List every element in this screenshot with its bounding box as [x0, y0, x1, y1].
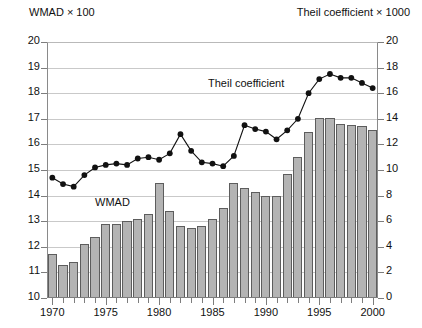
y-axis-right-tick-mark	[378, 221, 384, 222]
y-axis-right-tick-label: 10	[386, 162, 412, 174]
x-axis-tick-label: 1985	[193, 306, 233, 318]
x-axis-tick-label: 1970	[32, 306, 72, 318]
data-point-marker	[199, 159, 205, 165]
data-point-marker	[231, 153, 237, 159]
data-point-marker	[284, 127, 290, 133]
x-axis-tick-label: 1980	[139, 306, 179, 318]
data-point-marker	[210, 161, 216, 167]
y-axis-left-tick-label: 13	[14, 213, 40, 225]
data-point-marker	[92, 165, 98, 171]
data-point-marker	[327, 71, 333, 77]
chart-container: WMAD × 100 Theil coefficient × 1000 1011…	[0, 0, 422, 328]
y-axis-right-tick-label: 6	[386, 213, 412, 225]
data-point-marker	[359, 80, 365, 86]
data-point-marker	[220, 163, 226, 169]
y-axis-right-tick-label: 2	[386, 264, 412, 276]
data-point-marker	[370, 85, 376, 91]
y-axis-right-tick-mark	[378, 68, 384, 69]
y-axis-left-tick-label: 19	[14, 60, 40, 72]
y-axis-left-tick-label: 17	[14, 111, 40, 123]
data-point-marker	[103, 162, 109, 168]
y-axis-right-tick-label: 12	[386, 136, 412, 148]
data-point-marker	[71, 184, 77, 190]
y-axis-left-tick-label: 15	[14, 162, 40, 174]
right-axis-title: Theil coefficient × 1000	[297, 6, 410, 18]
y-axis-left-tick-label: 11	[14, 264, 40, 276]
x-axis-tick-label: 2000	[353, 306, 393, 318]
data-point-marker	[81, 172, 87, 178]
data-point-marker	[316, 76, 322, 82]
y-axis-right-tick-mark	[378, 119, 384, 120]
data-point-marker	[167, 150, 173, 156]
y-axis-right-tick-label: 0	[386, 290, 412, 302]
y-axis-left-tick-label: 18	[14, 85, 40, 97]
data-point-marker	[146, 154, 152, 160]
y-axis-left-tick-label: 10	[14, 290, 40, 302]
y-axis-right-tick-mark	[378, 272, 384, 273]
data-point-marker	[49, 175, 55, 181]
annotation-theil-coefficient: Theil coefficient	[208, 77, 284, 89]
x-axis-tick-label: 1990	[246, 306, 286, 318]
y-axis-right-tick-mark	[378, 42, 384, 43]
data-point-marker	[338, 75, 344, 81]
y-axis-right-tick-label: 20	[386, 34, 412, 46]
y-axis-right-tick-mark	[378, 196, 384, 197]
y-axis-left-tick-label: 16	[14, 136, 40, 148]
data-point-marker	[124, 162, 130, 168]
data-point-marker	[114, 161, 120, 167]
data-point-marker	[252, 126, 258, 132]
data-point-marker	[188, 148, 194, 154]
y-axis-left-tick-label: 14	[14, 188, 40, 200]
data-point-marker	[306, 90, 312, 96]
data-point-marker	[60, 181, 66, 187]
data-point-marker	[242, 122, 248, 128]
data-point-marker	[295, 116, 301, 122]
y-axis-right-tick-mark	[378, 144, 384, 145]
y-axis-right-tick-label: 14	[386, 111, 412, 123]
data-point-marker	[178, 131, 184, 137]
y-axis-left-tick-label: 20	[14, 34, 40, 46]
y-axis-right-tick-mark	[378, 93, 384, 94]
y-axis-right-tick-label: 16	[386, 85, 412, 97]
data-point-marker	[156, 157, 162, 163]
annotation-wmad: WMAD	[95, 196, 130, 208]
data-point-marker	[135, 156, 141, 162]
y-axis-right-tick-label: 4	[386, 239, 412, 251]
y-axis-right-tick-label: 18	[386, 60, 412, 72]
data-point-marker	[274, 136, 280, 142]
data-point-marker	[348, 75, 354, 81]
y-axis-right-tick-label: 8	[386, 188, 412, 200]
y-axis-right-tick-mark	[378, 170, 384, 171]
y-axis-right-tick-mark	[378, 298, 384, 299]
y-axis-right-tick-mark	[378, 247, 384, 248]
data-point-marker	[263, 129, 269, 135]
y-axis-left-tick-label: 12	[14, 239, 40, 251]
x-axis-tick-label: 1995	[299, 306, 339, 318]
left-axis-title: WMAD × 100	[29, 6, 95, 18]
x-axis-tick-label: 1975	[86, 306, 126, 318]
